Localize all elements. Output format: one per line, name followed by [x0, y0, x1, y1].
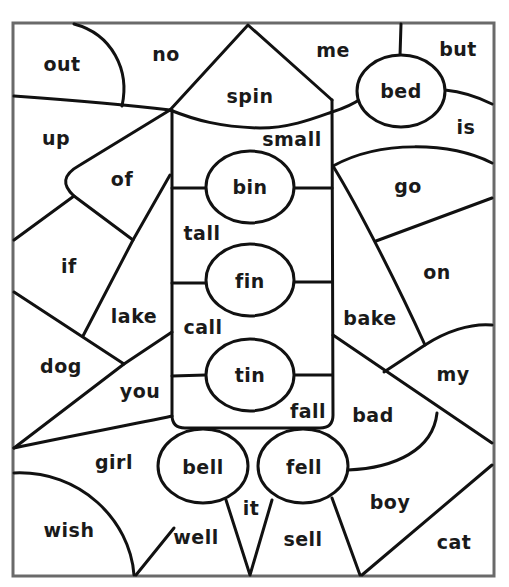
word-my[interactable]: my	[436, 363, 469, 385]
word-of[interactable]: of	[111, 168, 133, 190]
word-it[interactable]: it	[243, 497, 260, 519]
word-boy[interactable]: boy	[370, 491, 411, 513]
bad-diagonal-border	[333, 335, 492, 443]
boy-cat-divider	[362, 465, 492, 575]
word-go[interactable]: go	[394, 175, 422, 197]
is-region-border	[445, 90, 492, 104]
word-bin[interactable]: bin	[232, 176, 267, 198]
out-region-border	[74, 24, 124, 106]
word-but[interactable]: but	[439, 38, 477, 60]
word-is[interactable]: is	[457, 116, 476, 138]
word-sell[interactable]: sell	[283, 528, 322, 550]
word-if[interactable]: if	[61, 255, 77, 277]
up-if-divider	[14, 196, 74, 240]
word-bed[interactable]: bed	[380, 80, 422, 102]
word-me[interactable]: me	[316, 39, 350, 61]
word-fin[interactable]: fin	[235, 270, 265, 292]
word-out[interactable]: out	[43, 53, 80, 75]
word-bad[interactable]: bad	[352, 404, 394, 426]
word-girl[interactable]: girl	[95, 451, 133, 473]
word-up[interactable]: up	[42, 127, 70, 149]
if-dog-divider	[14, 292, 124, 364]
word-bake[interactable]: bake	[343, 307, 396, 329]
word-no[interactable]: no	[152, 43, 180, 65]
sell-right-border	[332, 498, 360, 575]
word-well[interactable]: well	[173, 526, 218, 548]
word-small[interactable]: small	[262, 128, 321, 150]
spin-region-border	[170, 110, 332, 128]
up-region-border	[14, 96, 170, 110]
go-region-border	[333, 147, 492, 166]
word-cat[interactable]: cat	[437, 531, 472, 553]
you-girl-divider	[14, 416, 172, 448]
word-call[interactable]: call	[183, 316, 222, 338]
word-fell[interactable]: fell	[286, 456, 322, 478]
word-bell[interactable]: bell	[182, 456, 224, 478]
word-wish[interactable]: wish	[44, 519, 95, 541]
word-you[interactable]: you	[120, 380, 160, 402]
word-on[interactable]: on	[423, 261, 451, 283]
word-tall[interactable]: tall	[184, 222, 221, 244]
coloring-worksheet: out no spin me bed but up small is of bi…	[0, 0, 509, 587]
word-tin[interactable]: tin	[235, 364, 266, 386]
go-on-divider	[376, 198, 492, 241]
word-dog[interactable]: dog	[40, 355, 82, 377]
word-lake[interactable]: lake	[111, 305, 157, 327]
word-fall[interactable]: fall	[290, 400, 326, 422]
well-left-border	[136, 528, 174, 575]
word-spin[interactable]: spin	[227, 85, 274, 107]
me-but-divider	[400, 24, 401, 56]
